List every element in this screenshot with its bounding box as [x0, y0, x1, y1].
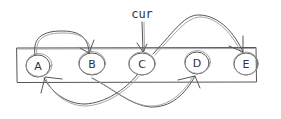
- node-d: D: [185, 51, 211, 75]
- diagram-canvas: A B C D E cur: [0, 0, 281, 119]
- node-b-label: B: [88, 58, 96, 71]
- edge-b-to-d: [92, 76, 200, 107]
- node-e: E: [234, 52, 259, 75]
- arrowhead-icon: [41, 77, 62, 93]
- node-d-label: D: [193, 57, 201, 70]
- node-c-label: C: [138, 58, 146, 71]
- node-c: C: [129, 52, 156, 75]
- edge-a-to-b: [35, 31, 94, 55]
- node-b: B: [79, 52, 106, 76]
- edge-c-to-a: [41, 75, 139, 106]
- cur-label: cur: [131, 7, 153, 21]
- cur-pointer: cur: [131, 7, 153, 52]
- node-e-label: E: [243, 58, 250, 71]
- node-a-label: A: [34, 60, 42, 73]
- node-a: A: [26, 54, 52, 78]
